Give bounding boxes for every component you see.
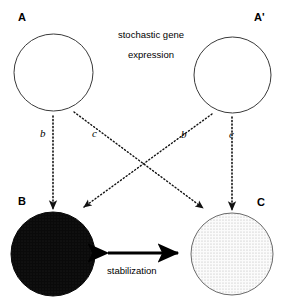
edge-rate-label-c-left: c: [92, 128, 97, 139]
node-label-B: B: [18, 196, 26, 207]
edge-rate-label-b-left: b: [40, 128, 46, 139]
diagram-canvas: A A' B C b c b c stochastic gene express…: [0, 0, 283, 304]
diagram-graphics: [0, 0, 283, 304]
stabilization-label: stabilization: [107, 266, 157, 276]
node-circle-A: [14, 34, 93, 111]
node-circle-B: [11, 212, 95, 296]
edge-rate-label-c-right: c: [229, 129, 234, 140]
node-label-C: C: [257, 197, 265, 208]
node-label-A-prime: A': [254, 12, 265, 23]
node-circle-A-prime: [194, 37, 271, 113]
caption-stochastic-gene: stochastic gene: [97, 30, 205, 40]
node-circle-C: [191, 213, 273, 295]
edge-rate-label-b-right: b: [181, 129, 187, 140]
caption-expression: expression: [97, 50, 205, 60]
edge-A-prime-to-B: [84, 114, 212, 207]
node-label-A: A: [18, 12, 26, 23]
